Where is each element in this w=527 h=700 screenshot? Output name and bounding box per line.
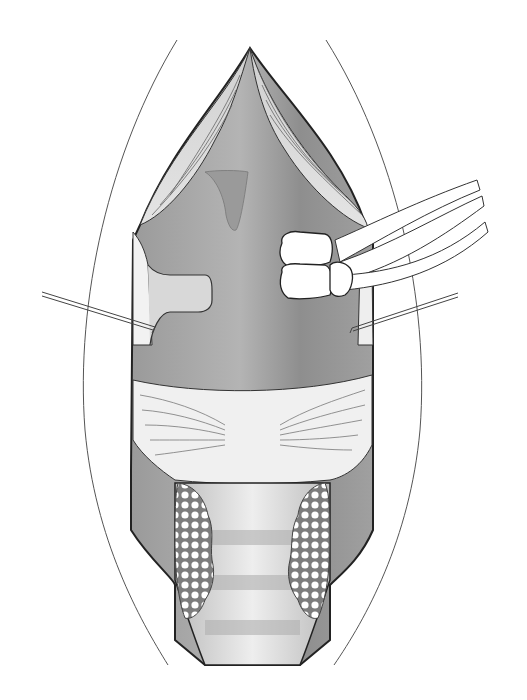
- illustration-canvas: [0, 0, 527, 700]
- sling-strands: [335, 180, 488, 290]
- transverse-muscle-band: [133, 375, 372, 484]
